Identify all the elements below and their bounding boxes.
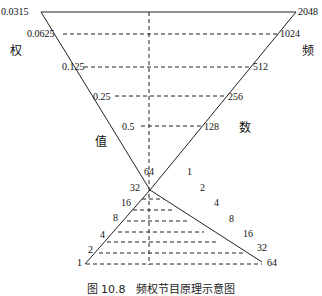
lower-left-label: 16 (121, 198, 131, 208)
lower-left-label: 1 (77, 258, 82, 268)
lower-right-label: 16 (243, 229, 253, 239)
lower-left-label: 4 (100, 230, 105, 240)
upper-right-label: 128 (204, 122, 219, 132)
upper-left-label: 0.125 (62, 62, 85, 72)
frequency-char-1: 频 (302, 45, 314, 57)
upper-left-label: 0.0625 (27, 29, 55, 39)
upper-dashed-lines (63, 34, 278, 126)
lower-left-label: 32 (130, 183, 140, 193)
weight-char-1: 权 (10, 45, 22, 57)
upper-left-label: 0.5 (122, 122, 135, 132)
upper-left-label: 0.25 (93, 92, 111, 102)
lower-right-label: 8 (229, 214, 234, 224)
lower-left-label: 8 (113, 213, 118, 223)
lower-right-label: 1 (187, 167, 192, 177)
lower-right-label: 2 (200, 183, 205, 193)
lower-right-label: 4 (214, 198, 219, 208)
upper-right-label: 1024 (280, 29, 300, 39)
lower-left-diagonal (85, 190, 150, 264)
lower-left-label: 64 (144, 167, 154, 177)
lower-right-label: 64 (267, 258, 277, 268)
upper-right-diagonal (150, 12, 296, 190)
lower-dashed-lines (86, 199, 262, 264)
upper-left-label: 0.0315 (1, 7, 29, 17)
figure-caption: 图 10.8 频权节目原理示意图 (0, 280, 322, 296)
lower-right-diagonal (150, 190, 262, 262)
upper-right-label: 256 (228, 92, 243, 102)
lower-right-label: 32 (257, 243, 267, 253)
lower-left-label: 2 (88, 245, 93, 255)
upper-right-label: 2048 (298, 7, 318, 17)
frequency-char-2: 数 (239, 122, 251, 134)
upper-right-label: 512 (253, 62, 268, 72)
weight-char-2: 值 (95, 136, 107, 148)
